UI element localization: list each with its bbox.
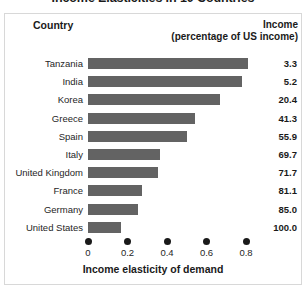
row-label-country: Germany — [0, 204, 83, 215]
x-tick-label: 0.4 — [147, 247, 187, 258]
bar — [88, 185, 142, 196]
row-value-income: 85.0 — [227, 204, 297, 215]
x-tick-marker — [243, 238, 250, 245]
bar — [88, 76, 242, 87]
row-label-country: Greece — [0, 113, 83, 124]
row-label-country: France — [0, 185, 83, 196]
row-value-income: 41.3 — [227, 113, 297, 124]
bar — [88, 131, 187, 142]
row-value-income: 69.7 — [227, 149, 297, 160]
table-row: United States100.0 — [0, 219, 306, 237]
x-tick-label: 0.6 — [187, 247, 227, 258]
table-row: Spain55.9 — [0, 128, 306, 146]
chart-title: Income Elasticities in 10 Countries — [0, 0, 306, 5]
row-value-income: 5.2 — [227, 76, 297, 87]
bar — [88, 58, 248, 69]
row-label-country: India — [0, 76, 83, 87]
column-header-income-line2: (percentage of US income) — [98, 31, 298, 43]
bar — [88, 167, 158, 178]
row-label-country: Italy — [0, 149, 83, 160]
x-tick-marker — [164, 238, 171, 245]
bar — [88, 204, 138, 215]
column-header-country: Country — [33, 19, 73, 31]
row-value-income: 3.3 — [227, 58, 297, 69]
x-tick-label: 0.2 — [108, 247, 148, 258]
row-label-country: Tanzania — [0, 58, 83, 69]
chart-figure: Income Elasticities in 10 Countries Coun… — [0, 0, 306, 290]
bar — [88, 149, 160, 160]
table-row: India5.2 — [0, 73, 306, 91]
x-tick-marker — [85, 238, 92, 245]
row-label-country: Spain — [0, 131, 83, 142]
column-header-income: Income (percentage of US income) — [98, 19, 298, 43]
table-row: France81.1 — [0, 182, 306, 200]
row-label-country: United States — [0, 222, 83, 233]
row-value-income: 81.1 — [227, 185, 297, 196]
row-label-country: United Kingdom — [0, 167, 83, 178]
row-value-income: 55.9 — [227, 131, 297, 142]
table-row: United Kingdom71.7 — [0, 164, 306, 182]
bar — [88, 113, 195, 124]
x-tick-marker — [124, 238, 131, 245]
x-tick-marker — [203, 238, 210, 245]
table-row: Korea20.4 — [0, 91, 306, 109]
x-tick-label: 0 — [68, 247, 108, 258]
bar — [88, 94, 220, 105]
row-label-country: Korea — [0, 94, 83, 105]
row-value-income: 20.4 — [227, 94, 297, 105]
table-row: Germany85.0 — [0, 201, 306, 219]
table-row: Italy69.7 — [0, 146, 306, 164]
bar — [88, 222, 121, 233]
row-value-income: 71.7 — [227, 167, 297, 178]
table-row: Tanzania3.3 — [0, 55, 306, 73]
column-header-income-line1: Income — [263, 19, 298, 30]
x-tick-label: 0.8 — [226, 247, 266, 258]
x-axis-title: Income elasticity of demand — [0, 263, 306, 275]
row-value-income: 100.0 — [227, 222, 297, 233]
table-row: Greece41.3 — [0, 110, 306, 128]
